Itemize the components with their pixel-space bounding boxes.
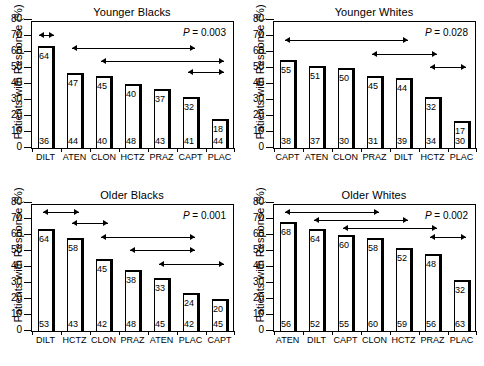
x-axis-category-label: PRAZ xyxy=(418,334,447,346)
bar: 1730 xyxy=(454,121,472,148)
arrow-head-right-icon xyxy=(190,45,195,51)
y-axis-tick: 30 xyxy=(266,99,274,100)
x-axis-category-label: CAPT xyxy=(205,334,234,346)
significance-arrow xyxy=(72,45,194,52)
bar-sample-size: 44 xyxy=(213,136,224,146)
bar-response-value: 58 xyxy=(368,243,379,253)
significance-arrow xyxy=(314,217,407,224)
bar-sample-size: 37 xyxy=(310,136,321,146)
bar-response-value: 58 xyxy=(68,243,79,253)
y-axis-tick-label: 70 xyxy=(253,211,264,224)
arrow-shaft xyxy=(159,264,223,265)
arrow-head-right-icon xyxy=(219,58,224,64)
y-axis-tick: 60 xyxy=(24,51,32,52)
bar-response-value: 37 xyxy=(155,94,166,104)
y-axis-tick: 20 xyxy=(266,115,274,116)
bar-sample-size: 44 xyxy=(68,136,79,146)
y-axis-tick: 50 xyxy=(266,250,274,251)
bar-sample-size: 52 xyxy=(310,319,321,329)
arrow-head-left-icon xyxy=(39,32,44,38)
x-axis-category-label: PLAC xyxy=(205,151,234,163)
x-axis-labels: CAPTATENCLONPRAZDILTHCTZPLAC xyxy=(273,151,476,165)
bar-response-value: 17 xyxy=(455,126,466,136)
arrow-head-right-icon xyxy=(403,37,408,43)
y-axis-tick-label: 30 xyxy=(253,92,264,105)
y-axis-tick-label: 20 xyxy=(253,291,264,304)
plot-area: P = 0.028 01020304050607080 553851375030… xyxy=(273,21,476,149)
bar: 3241 xyxy=(183,97,201,148)
arrow-shaft xyxy=(101,237,194,238)
y-axis-tick-label: 40 xyxy=(253,76,264,89)
bar-group: 5538513750304531443932341730 xyxy=(274,22,475,148)
bar: 2442 xyxy=(183,293,201,331)
y-axis-tick: 70 xyxy=(24,218,32,219)
x-axis-category-label: DILT xyxy=(31,334,60,346)
y-axis-tick: 0 xyxy=(266,330,274,331)
bar-sample-size: 53 xyxy=(39,319,50,329)
bar-response-value: 64 xyxy=(39,234,50,244)
x-axis-labels: ATENDILTCAPTCLONHCTZPRAZPLAC xyxy=(273,334,476,348)
bar: 4439 xyxy=(396,78,414,148)
bar-response-value: 45 xyxy=(97,264,108,274)
significance-arrow xyxy=(43,209,78,216)
bar-response-value: 48 xyxy=(426,259,437,269)
x-axis-category-label: CAPT xyxy=(273,151,302,163)
y-axis-tick-label: 60 xyxy=(253,44,264,57)
y-axis-tick: 50 xyxy=(24,250,32,251)
arrow-head-left-icon xyxy=(130,247,135,253)
bar-response-value: 40 xyxy=(126,89,137,99)
bar: 1844 xyxy=(212,119,230,148)
y-axis-tick: 70 xyxy=(266,218,274,219)
x-axis-tick xyxy=(476,331,477,335)
y-axis-tick-label: 0 xyxy=(16,140,22,153)
bar-sample-size: 38 xyxy=(281,136,292,146)
y-axis-tick-label: 80 xyxy=(11,195,22,208)
significance-arrow xyxy=(372,51,436,58)
plot-area: P = 0.003 01020304050607080 643647444540… xyxy=(31,21,234,149)
bar-sample-size: 63 xyxy=(455,319,466,329)
x-axis-category-label: CAPT xyxy=(176,151,205,163)
x-axis-category-label: PRAZ xyxy=(147,151,176,163)
arrow-shaft xyxy=(72,48,194,49)
y-axis-tick-label: 70 xyxy=(11,211,22,224)
y-axis-tick-label: 20 xyxy=(11,291,22,304)
bar-response-value: 64 xyxy=(39,51,50,61)
x-axis-labels: DILTATENCLONHCTZPRAZCAPTPLAC xyxy=(31,151,234,165)
bar-response-value: 24 xyxy=(184,298,195,308)
y-axis-tick-label: 0 xyxy=(258,140,264,153)
x-axis-category-label: DILT xyxy=(302,334,331,346)
bar-sample-size: 34 xyxy=(426,136,437,146)
panel-older-whites: Older Whites Patients with Response (%) … xyxy=(242,183,484,366)
y-axis-tick: 50 xyxy=(24,67,32,68)
x-axis-labels: DILTHCTZCLONPRAZATENPLACCAPT xyxy=(31,334,234,348)
arrow-head-right-icon xyxy=(374,209,379,215)
x-axis-category-label: DILT xyxy=(389,151,418,163)
bar-sample-size: 41 xyxy=(184,136,195,146)
y-axis-tick-label: 10 xyxy=(253,124,264,137)
arrow-head-right-icon xyxy=(432,51,437,57)
panel-title: Older Blacks xyxy=(28,188,236,202)
bar-sample-size: 48 xyxy=(126,319,137,329)
y-axis-tick: 20 xyxy=(24,115,32,116)
bar: 4856 xyxy=(425,254,443,331)
bar: 4744 xyxy=(67,73,85,148)
y-axis-tick-label: 10 xyxy=(11,307,22,320)
x-axis-category-label: HCTZ xyxy=(118,151,147,163)
x-axis-tick xyxy=(234,331,235,335)
arrow-head-left-icon xyxy=(101,234,106,240)
y-axis-tick-label: 20 xyxy=(11,108,22,121)
bar-group: 6856645260555860525948563263 xyxy=(274,205,475,331)
panel-younger-blacks: Younger Blacks Patients with Response (%… xyxy=(0,0,242,183)
y-axis-tick: 20 xyxy=(266,298,274,299)
bar: 3345 xyxy=(154,278,172,331)
y-axis-tick-label: 30 xyxy=(253,275,264,288)
x-axis-category-label: CLON xyxy=(89,151,118,163)
bar-sample-size: 30 xyxy=(339,136,350,146)
significance-arrow xyxy=(39,32,54,39)
arrow-shaft xyxy=(314,220,407,221)
bar-sample-size: 59 xyxy=(397,319,408,329)
significance-arrow xyxy=(101,234,194,241)
arrow-head-left-icon xyxy=(72,45,77,51)
bar: 6453 xyxy=(38,229,56,331)
x-axis-category-label: CLON xyxy=(89,334,118,346)
